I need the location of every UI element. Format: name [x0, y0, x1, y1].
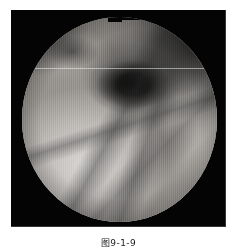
photo-frame [11, 10, 226, 227]
field-notch-inner [120, 17, 144, 20]
endoscopic-image [22, 17, 217, 222]
horizontal-scanline-artifact [22, 68, 217, 69]
figure-caption: 图9-1-9 [0, 238, 237, 248]
vignette-overlay [22, 17, 217, 222]
figure-block: 图9-1-9 [0, 0, 237, 248]
